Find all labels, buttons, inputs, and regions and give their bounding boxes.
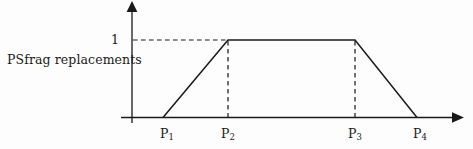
x-axis-tick-p2-subscript: 2 (229, 132, 234, 142)
x-axis-tick-p1-subscript: 1 (168, 132, 173, 142)
y-axis-arrowhead (127, 1, 138, 12)
trapezoid-curve (163, 40, 417, 118)
psfrag-replacements-label: PSfrag replacements (7, 52, 142, 67)
x-axis-tick-label-p2: P2 (221, 126, 235, 142)
x-axis-tick-p3-subscript: 3 (356, 132, 361, 142)
y-axis-tick-label-one: 1 (111, 32, 119, 47)
x-axis-tick-label-p1: P1 (160, 126, 174, 142)
x-axis-tick-p4-subscript: 4 (421, 132, 426, 142)
x-axis-tick-label-p4: P4 (413, 126, 427, 142)
x-axis-arrowhead (452, 112, 464, 122)
trapezoid-plot (0, 0, 473, 149)
x-axis-tick-label-p3: P3 (348, 126, 362, 142)
figure-canvas: PSfrag replacements 1 P1 P2 P3 P4 (0, 0, 473, 149)
